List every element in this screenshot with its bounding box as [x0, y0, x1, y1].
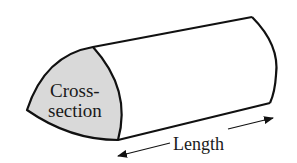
- length-arrow-left: [118, 143, 170, 156]
- length-arrow-right: [228, 118, 273, 129]
- cross-section-label-line1: Cross-: [50, 80, 100, 101]
- top-edge: [93, 17, 252, 47]
- length-label: Length: [173, 134, 224, 154]
- cross-section-label-line2: section: [48, 100, 102, 121]
- prism-diagram: Cross- section Length: [0, 0, 297, 163]
- far-end-curve: [252, 17, 277, 103]
